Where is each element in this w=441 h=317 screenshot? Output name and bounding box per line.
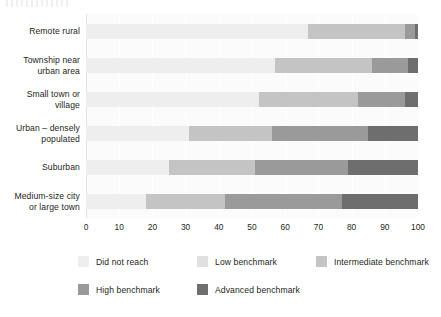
x-tick-label-100: 100 [411, 222, 425, 232]
bar-segment[interactable] [86, 126, 189, 141]
bar-segment[interactable] [86, 194, 146, 209]
bar-row[interactable] [86, 24, 418, 39]
category-label: Township nearurban area [0, 55, 80, 76]
category-label: Small town orvillage [0, 89, 80, 110]
bar-segment[interactable] [272, 126, 368, 141]
x-tick-label-10: 10 [115, 222, 124, 232]
x-tick-label-90: 90 [380, 222, 389, 232]
legend-item[interactable]: Did not reach [78, 256, 148, 267]
bar-segment[interactable] [225, 194, 341, 209]
bar-segment[interactable] [259, 92, 359, 107]
bar-segment[interactable] [368, 126, 418, 141]
bar-segment[interactable] [275, 58, 371, 73]
bar-segment[interactable] [405, 92, 418, 107]
bar-row[interactable] [86, 194, 418, 209]
legend-label: High benchmark [96, 285, 160, 295]
bar-segment[interactable] [86, 58, 275, 73]
legend-swatch-icon [78, 256, 89, 267]
bar-segment[interactable] [348, 160, 418, 175]
bar-segment[interactable] [358, 92, 404, 107]
bar-segment[interactable] [86, 92, 259, 107]
bar-row[interactable] [86, 58, 418, 73]
legend-swatch-icon [197, 284, 208, 295]
category-label: Urban – denselypopulated [0, 123, 80, 144]
plot-area [86, 14, 418, 218]
legend-item[interactable]: High benchmark [78, 284, 160, 295]
x-tick-label-30: 30 [181, 222, 190, 232]
clipped-header-artifact [6, 0, 70, 7]
bar-segment[interactable] [415, 24, 418, 39]
legend-item[interactable]: Advanced benchmark [197, 284, 300, 295]
legend-label: Advanced benchmark [215, 285, 300, 295]
chart-legend: Did not reachLow benchmarkIntermediate b… [78, 256, 438, 312]
category-label: Remote rural [0, 26, 80, 37]
bar-segment[interactable] [86, 160, 169, 175]
legend-swatch-icon [197, 256, 208, 267]
bar-row[interactable] [86, 92, 418, 107]
bar-segment[interactable] [408, 58, 418, 73]
x-tick-label-40: 40 [214, 222, 223, 232]
category-label: Medium-size cityor large town [0, 191, 80, 212]
legend-label: Low benchmark [215, 257, 277, 267]
x-tick-label-70: 70 [314, 222, 323, 232]
legend-label: Intermediate benchmark [334, 257, 429, 267]
legend-label: Did not reach [96, 257, 148, 267]
x-tick-label-80: 80 [347, 222, 356, 232]
x-tick-label-60: 60 [281, 222, 290, 232]
bar-segment[interactable] [372, 58, 409, 73]
value-axis-ticks: 0102030405060708090100 [86, 222, 418, 236]
bar-segment[interactable] [169, 160, 255, 175]
bar-segment[interactable] [405, 24, 415, 39]
bar-row[interactable] [86, 160, 418, 175]
bar-segment[interactable] [342, 194, 418, 209]
x-tick-label-50: 50 [247, 222, 256, 232]
bar-segment[interactable] [308, 24, 404, 39]
bar-segment[interactable] [86, 24, 308, 39]
legend-swatch-icon [316, 256, 327, 267]
category-label: Suburban [0, 162, 80, 173]
bar-segment[interactable] [255, 160, 348, 175]
bar-segment[interactable] [189, 126, 272, 141]
category-axis-labels: Remote ruralTownship nearurban areaSmall… [0, 14, 80, 218]
x-tick-label-0: 0 [84, 222, 89, 232]
legend-item[interactable]: Low benchmark [197, 256, 277, 267]
legend-swatch-icon [78, 284, 89, 295]
gridline-100 [418, 14, 419, 218]
stacked-bar-chart: Remote ruralTownship nearurban areaSmall… [0, 0, 441, 317]
bar-row[interactable] [86, 126, 418, 141]
x-tick-label-20: 20 [148, 222, 157, 232]
legend-item[interactable]: Intermediate benchmark [316, 256, 429, 267]
bar-segment[interactable] [146, 194, 226, 209]
bar-rows [86, 14, 418, 218]
